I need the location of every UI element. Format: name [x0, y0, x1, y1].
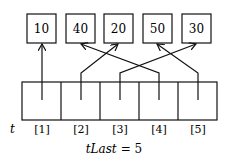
- pointer-array-diagram: 10 40 20 50 30 t [1] [2] [3] [4] [5] tLa…: [0, 0, 233, 164]
- index-label: [5]: [190, 123, 206, 136]
- caption-var: tLast: [86, 142, 117, 156]
- index-label: [3]: [112, 123, 128, 136]
- array-name-label: t: [10, 122, 15, 136]
- value-boxes: 10 40 20 50 30: [27, 14, 211, 43]
- value-text: 40: [73, 22, 88, 36]
- index-label: [2]: [73, 123, 89, 136]
- value-text: 10: [34, 22, 49, 36]
- pointer-arrows: [42, 44, 198, 100]
- index-label: [1]: [34, 123, 50, 136]
- index-label: [4]: [151, 123, 167, 136]
- caption: tLast= 5: [86, 142, 142, 156]
- caption-eq: = 5: [121, 142, 143, 156]
- value-text: 30: [189, 22, 204, 36]
- value-text: 20: [111, 22, 126, 36]
- value-text: 50: [150, 22, 165, 36]
